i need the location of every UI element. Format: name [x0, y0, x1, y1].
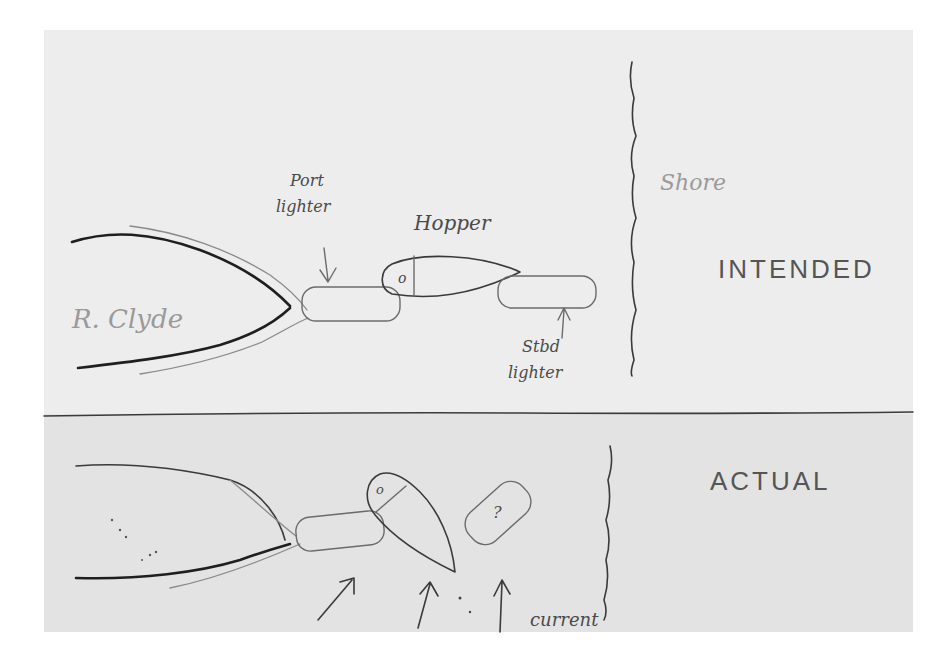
dot — [459, 597, 462, 600]
stbd-lighter-label-2: lighter — [508, 363, 564, 382]
sketch-diagram: R. Clyde Port lighter o Hopper Stbd ligh… — [0, 0, 951, 666]
stbd-lighter-label-1: Stbd — [522, 337, 560, 356]
shore-label: Shore — [660, 170, 726, 195]
hopper-label: Hopper — [413, 211, 492, 235]
current-label: current — [530, 609, 599, 630]
port-lighter-label-1: Port — [289, 171, 324, 190]
paper-bottom — [44, 414, 913, 632]
river-label: R. Clyde — [71, 304, 183, 334]
actual-label: ACTUAL — [710, 466, 831, 496]
dot — [469, 611, 471, 613]
hopper-actual-marker: o — [376, 482, 384, 497]
intended-label: INTENDED — [718, 254, 875, 284]
unknown-vessel-marker: ? — [493, 503, 502, 522]
hopper-marker: o — [398, 270, 406, 286]
port-lighter-label-2: lighter — [276, 197, 332, 216]
